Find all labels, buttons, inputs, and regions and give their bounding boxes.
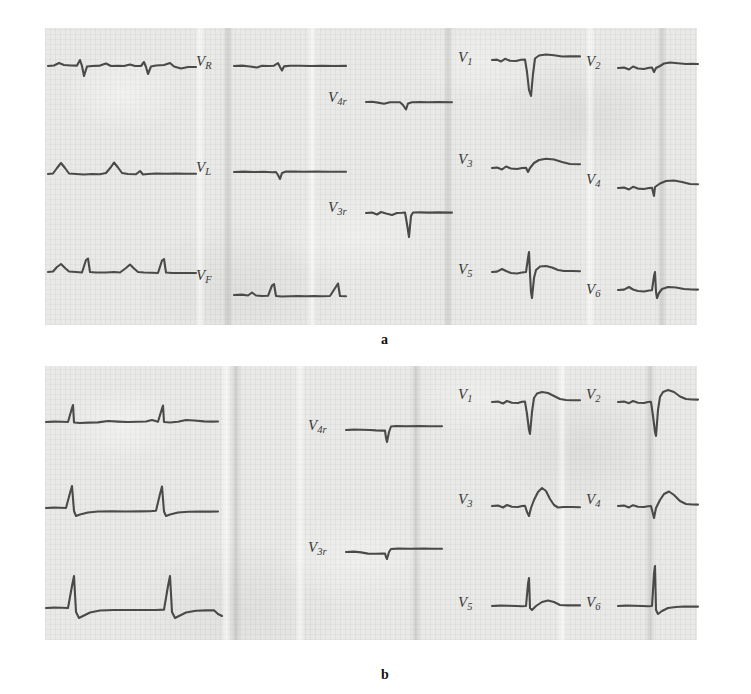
lead-label-v6-a: V6: [586, 282, 600, 300]
lead-label-v4r-a: V4r: [328, 90, 347, 108]
ecg-trace-v2-a: [618, 52, 698, 86]
lead-label-v3-a: V3: [458, 152, 472, 170]
lead-label-v4r-b: V4r: [308, 418, 327, 436]
ecg-trace-v4-a: [618, 170, 698, 210]
ecg-trace-v1-a: [492, 46, 580, 102]
ecg-trace-v3-b: [492, 482, 580, 528]
paper-seam: [295, 366, 305, 640]
ecg-trace-v1-b: [492, 386, 580, 442]
ecg-trace-v3r-a: [366, 202, 452, 250]
ecg-trace-v6-b: [618, 548, 698, 630]
paper-seam: [223, 28, 233, 325]
ecg-trace-v3-a: [492, 150, 580, 186]
ecg-trace-v2-b: [618, 386, 698, 442]
paper-seam: [221, 366, 231, 640]
ecg-trace-v4r-b: [346, 418, 442, 448]
lead-label-v2-b: V2: [586, 387, 600, 405]
ecg-trace-v6-a: [618, 262, 698, 322]
ecg-trace-v4-b: [618, 482, 698, 528]
lead-label-v3r-b: V3r: [308, 540, 327, 558]
ecg-trace-vr-strip2: [234, 52, 346, 80]
ecg-trace-vl-strip2: [234, 158, 346, 188]
ecg-trace-b-limb-3: [46, 570, 222, 632]
paper-seam: [411, 366, 421, 640]
lead-label-v4-a: V4: [586, 172, 600, 190]
lead-label-v1-a: V1: [458, 50, 472, 68]
lead-label-v3-b: V3: [458, 492, 472, 510]
lead-label-vf: VF: [196, 268, 212, 286]
ecg-trace-vr: [48, 46, 196, 86]
lead-label-v6-b: V6: [586, 595, 600, 613]
ecg-trace-vf-strip2: [234, 280, 346, 306]
lead-label-v3r-a: V3r: [328, 200, 347, 218]
ecg-trace-vf: [48, 248, 196, 292]
lead-label-v1-b: V1: [458, 387, 472, 405]
ecg-trace-vl: [48, 150, 196, 190]
panel-caption-b: b: [381, 667, 389, 683]
ecg-trace-v4r-a: [366, 92, 452, 120]
ecg-trace-v3r-b: [346, 540, 442, 568]
paper-seam: [443, 28, 453, 325]
paper-seam: [231, 366, 241, 640]
ecg-trace-b-limb-2: [46, 478, 218, 532]
panel-caption-a: a: [381, 332, 388, 348]
lead-label-vr: VR: [196, 54, 212, 72]
ecg-trace-v5-b: [492, 560, 580, 632]
lead-label-v5-a: V5: [458, 262, 472, 280]
ecg-trace-v5-a: [492, 238, 580, 310]
lead-label-v5-b: V5: [458, 595, 472, 613]
lead-label-v2-a: V2: [586, 54, 600, 72]
ecg-trace-b-limb-1: [46, 400, 218, 434]
ecg-figure: VR VL VF V4r V3: [0, 0, 751, 694]
lead-label-vl: VL: [196, 160, 211, 178]
lead-label-v4-b: V4: [586, 492, 600, 510]
